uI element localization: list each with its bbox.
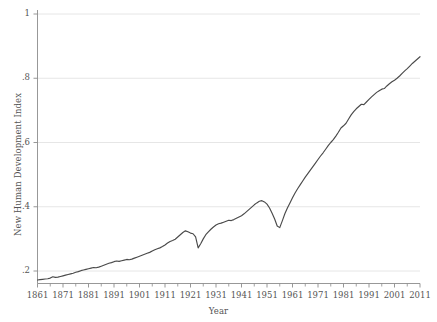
- data-series: [38, 57, 421, 280]
- x-tick-label-15: 2011: [403, 290, 437, 300]
- axis-ticks: [34, 14, 421, 288]
- y-tick-label-0: .2: [4, 265, 30, 275]
- y-tick-label-3: .8: [4, 72, 30, 82]
- gridlines: [38, 14, 421, 271]
- y-tick-label-2: .6: [4, 137, 30, 147]
- y-tick-label-4: 1: [4, 8, 30, 18]
- y-tick-label-1: .4: [4, 201, 30, 211]
- series-line-0: [38, 57, 421, 280]
- x-axis-title: Year: [0, 306, 437, 316]
- axis-lines: [38, 10, 421, 284]
- hdi-line-chart: New Human Development Index Year .2.4.6.…: [0, 0, 437, 322]
- plot-canvas: [0, 0, 437, 322]
